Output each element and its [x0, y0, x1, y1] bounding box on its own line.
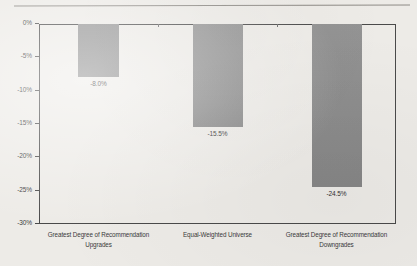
- y-axis-tick-label: -5%: [21, 52, 32, 60]
- y-axis-tick-label: -10%: [17, 86, 32, 94]
- y-axis-tick-label: -25%: [17, 186, 32, 194]
- x-axis-category-label: Greatest Degree of RecommendationDowngra…: [267, 230, 407, 249]
- x-axis-tick-mark: [158, 24, 159, 27]
- y-axis-tick-label: -20%: [17, 152, 32, 160]
- y-axis-tick-label: -15%: [17, 119, 32, 127]
- y-axis-tick-label: 0%: [23, 19, 32, 27]
- y-axis-tick-mark: [35, 190, 39, 191]
- chart-screenshot: -8.0%-15.5%-24.5% 0%-5%-10%-15%-20%-25%-…: [0, 0, 417, 266]
- x-axis-category-label-line: Upgrades: [29, 240, 169, 250]
- bar: [312, 24, 362, 187]
- y-axis-tick-mark: [35, 223, 39, 224]
- bar-value-label: -8.0%: [69, 80, 129, 87]
- y-axis-tick-mark: [35, 123, 39, 124]
- header-rule: [14, 5, 410, 7]
- bar: [193, 24, 243, 127]
- y-axis-tick-mark: [35, 156, 39, 157]
- bar: [78, 24, 119, 77]
- bar-value-label: -24.5%: [307, 190, 367, 197]
- x-axis-tick-mark: [277, 24, 278, 27]
- x-axis-category-label-line: Greatest Degree of Recommendation: [267, 230, 407, 240]
- x-axis-category-label-line: Downgrades: [267, 240, 407, 250]
- y-axis-tick-mark: [35, 90, 39, 91]
- y-axis-tick-mark: [35, 23, 39, 24]
- bar-value-label: -15.5%: [188, 130, 248, 137]
- y-axis-tick-label: -30%: [17, 219, 32, 227]
- y-axis-tick-mark: [35, 56, 39, 57]
- plot-area: -8.0%-15.5%-24.5%: [39, 24, 396, 224]
